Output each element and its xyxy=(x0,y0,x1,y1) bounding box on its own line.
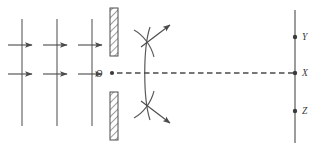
slit-point-group: O xyxy=(96,69,115,79)
screen-point-z-dot xyxy=(293,109,297,113)
screen-point-y-dot xyxy=(293,35,297,39)
screen-point-x-dot xyxy=(293,71,297,75)
wavefront-cross-arc-lower xyxy=(134,91,154,118)
slit-label-o: O xyxy=(96,69,103,79)
wavefront-cross-arc-upper xyxy=(134,30,154,57)
observation-screen-group: Y X Z xyxy=(293,10,309,143)
spreading-arrow-upper xyxy=(141,25,170,47)
slit-point-dot xyxy=(110,71,114,75)
incident-wavefront-group xyxy=(22,19,92,126)
barrier-upper-block xyxy=(110,8,118,56)
spreading-arrow-lower xyxy=(141,101,170,123)
screen-point-z-label: Z xyxy=(302,106,308,116)
screen-point-x-label: X xyxy=(301,68,309,78)
diffraction-figure: O Y X Z xyxy=(0,0,322,151)
diffracted-wavefront-group xyxy=(134,25,170,123)
barrier-lower-block xyxy=(110,92,118,140)
screen-point-y-label: Y xyxy=(302,32,309,42)
figure-canvas: O Y X Z xyxy=(0,0,322,151)
